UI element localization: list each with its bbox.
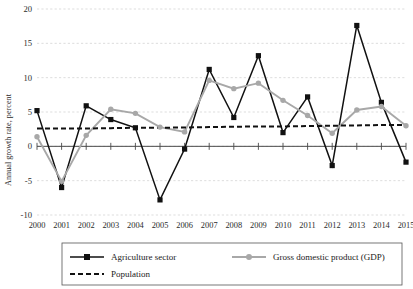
data-point-gdp: [182, 129, 187, 134]
legend-marker-gdp: [246, 254, 252, 260]
data-point-gdp: [231, 86, 236, 91]
y-tick-label: 10: [23, 73, 32, 83]
data-point-agriculture: [330, 163, 335, 168]
x-tick-label: 2006: [176, 221, 193, 230]
data-point-agriculture: [59, 185, 64, 190]
data-point-agriculture: [133, 125, 138, 130]
y-axis-title-text: Annual growth rate, percent: [4, 93, 13, 186]
x-tick-label: 2001: [53, 221, 70, 230]
x-tick-label: 2005: [152, 221, 169, 230]
data-point-gdp: [354, 107, 359, 112]
data-point-agriculture: [182, 146, 187, 151]
data-point-gdp: [379, 104, 384, 109]
y-tick-label: 0: [28, 141, 32, 151]
data-point-gdp: [59, 179, 64, 184]
data-point-gdp: [305, 113, 310, 118]
legend-label: Gross domestic product (GDP): [273, 252, 385, 262]
x-axis-tick-labels: 2000200120022003200420052006200720082009…: [29, 221, 413, 230]
data-point-gdp: [157, 124, 162, 129]
y-tick-label: -10: [21, 210, 32, 220]
chart-canvas: -10-505101520 20002001200220032004200520…: [0, 0, 413, 289]
x-tick-label: 2000: [29, 221, 46, 230]
data-point-agriculture: [305, 94, 310, 99]
zero-axis-line: [37, 143, 406, 150]
data-point-agriculture: [354, 23, 359, 28]
x-tick-label: 2003: [102, 221, 119, 230]
data-point-agriculture: [403, 160, 408, 165]
legend-marker-agriculture: [84, 254, 90, 260]
x-tick-label: 2014: [373, 221, 391, 230]
data-point-gdp: [133, 111, 138, 116]
x-tick-label: 2010: [275, 221, 292, 230]
legend-label: Population: [111, 269, 151, 279]
x-tick-label: 2007: [201, 221, 218, 230]
x-tick-label: 2012: [324, 221, 341, 230]
x-tick-label: 2002: [78, 221, 95, 230]
y-axis-title: Annual growth rate, percent: [4, 93, 13, 186]
x-tick-label: 2015: [398, 221, 413, 230]
x-tick-label: 2008: [225, 221, 242, 230]
y-tick-label: -5: [25, 176, 32, 186]
data-point-gdp: [256, 80, 261, 85]
data-point-gdp: [84, 133, 89, 138]
data-point-agriculture: [280, 130, 285, 135]
data-point-agriculture: [108, 117, 113, 122]
data-point-agriculture: [157, 197, 162, 202]
data-point-agriculture: [231, 115, 236, 120]
y-axis-tick-labels: -10-505101520: [21, 4, 32, 220]
data-series-layer: [34, 23, 408, 203]
x-tick-label: 2011: [299, 221, 315, 230]
data-point-agriculture: [34, 108, 39, 113]
data-point-gdp: [403, 123, 408, 128]
x-tick-label: 2004: [127, 221, 145, 230]
data-point-gdp: [280, 98, 285, 103]
x-tick-label: 2009: [250, 221, 267, 230]
data-point-gdp: [108, 107, 113, 112]
data-point-agriculture: [256, 53, 261, 58]
y-tick-label: 20: [23, 4, 32, 14]
gridlines: [37, 9, 406, 215]
y-tick-label: 5: [28, 107, 32, 117]
data-point-gdp: [34, 134, 39, 139]
data-point-agriculture: [207, 67, 212, 72]
data-point-agriculture: [84, 103, 89, 108]
legend-label: Agriculture sector: [111, 252, 176, 262]
chart-legend: Agriculture sectorGross domestic product…: [62, 243, 402, 285]
series-line-agriculture: [37, 25, 406, 199]
x-tick-label: 2013: [348, 221, 365, 230]
data-point-gdp: [207, 78, 212, 83]
y-tick-label: 15: [23, 38, 32, 48]
growth-rate-line-chart: -10-505101520 20002001200220032004200520…: [0, 0, 413, 289]
data-point-gdp: [330, 131, 335, 136]
series-line-gdp: [37, 80, 406, 181]
